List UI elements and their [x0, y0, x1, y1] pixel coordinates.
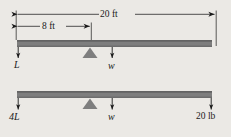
lower-beam-top-edge: [17, 91, 212, 93]
lower-beam-bottom-edge: [17, 97, 212, 98]
force-label-upper-left: L: [14, 60, 20, 70]
force-label-lower-weight: w: [108, 112, 115, 122]
upper-beam-bottom-edge: [17, 46, 212, 47]
dimension-label-8ft: 8 ft: [42, 22, 55, 32]
force-label-lower-left: 4L: [9, 112, 20, 122]
dimension-label-20ft: 20 ft: [100, 10, 118, 20]
force-label-lower-right: 20 lb: [196, 112, 215, 122]
upper-beam-top-edge: [17, 40, 212, 42]
force-label-upper-weight: w: [108, 61, 115, 71]
upper-beam: [17, 40, 212, 47]
lower-beam: [17, 91, 212, 98]
